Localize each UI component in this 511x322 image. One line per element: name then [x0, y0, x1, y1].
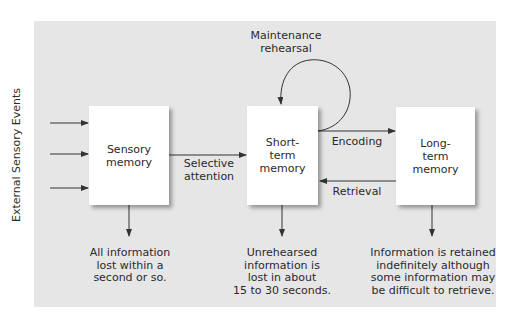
- long-term-memory-label: Long- term memory: [413, 137, 459, 176]
- short-term-memory-box: Short- term memory: [247, 106, 318, 205]
- short-term-memory-label: Short- term memory: [260, 136, 306, 175]
- selective-attention-label: Selective attention: [172, 158, 246, 183]
- retrieval-label: Retrieval: [325, 186, 389, 199]
- maintenance-rehearsal-label: Maintenance rehearsal: [248, 30, 324, 55]
- short-term-memory-note: Unrehearsed information is lost in about…: [230, 247, 334, 297]
- long-term-memory-box: Long- term memory: [396, 107, 475, 205]
- long-term-memory-note: Information is retained indefinitely alt…: [370, 247, 496, 297]
- sensory-memory-label: Sensory memory: [106, 143, 152, 169]
- sensory-memory-note: All information lost within a second or …: [84, 247, 176, 285]
- sensory-memory-box: Sensory memory: [89, 106, 169, 205]
- encoding-label: Encoding: [325, 136, 389, 149]
